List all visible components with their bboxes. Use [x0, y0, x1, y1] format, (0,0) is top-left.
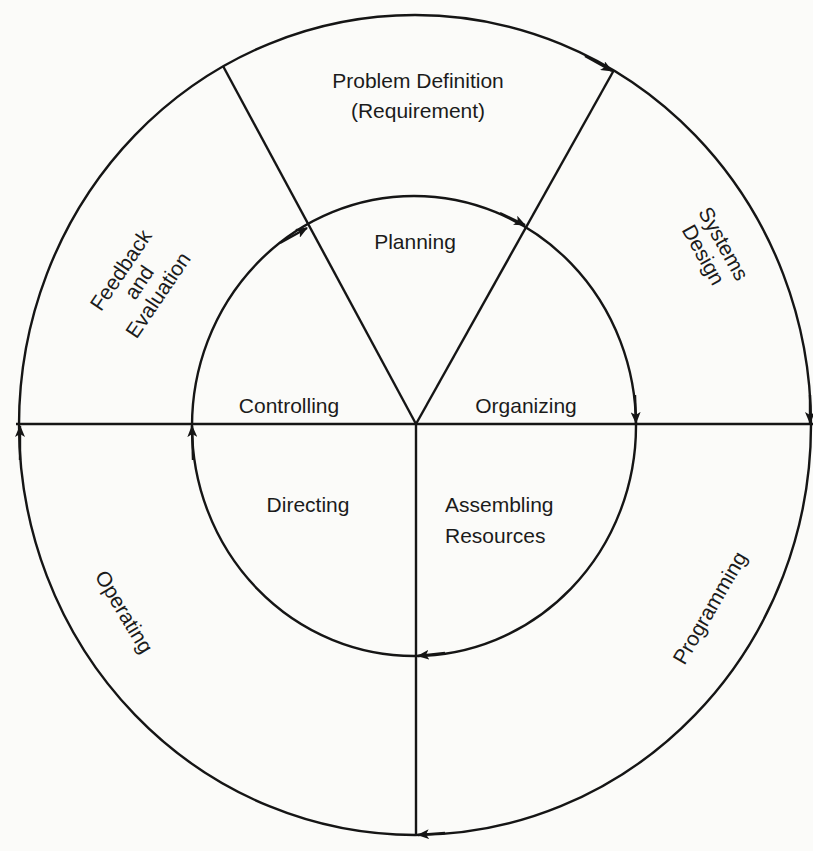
arrow-icon — [192, 426, 193, 460]
arrow-icon — [418, 653, 445, 656]
inner-ring — [192, 196, 636, 656]
stage-programming: Programming — [668, 547, 751, 668]
arrow-icon — [635, 395, 636, 423]
function-label: Resources — [445, 524, 545, 547]
stage-label: Problem Definition — [332, 69, 504, 92]
stage-label: Operating — [91, 566, 158, 657]
arrow-icon — [500, 213, 525, 225]
stage-operating: Operating — [91, 566, 158, 657]
function-planning: Planning — [374, 230, 456, 253]
function-label: Assembling — [445, 493, 554, 516]
stage-label: Programming — [668, 547, 751, 668]
function-organizing: Organizing — [475, 394, 577, 417]
arrow-icon — [280, 228, 307, 243]
stage-feedback-evaluation: Feedback and Evaluation — [84, 223, 195, 342]
arrow-icon — [585, 56, 612, 71]
stage-label: (Requirement) — [351, 99, 485, 122]
function-directing: Directing — [267, 493, 350, 516]
stage-problem-definition: Problem Definition (Requirement) — [332, 69, 504, 122]
function-assembling-resources: Assembling Resources — [445, 493, 554, 547]
function-controlling: Controlling — [239, 394, 339, 417]
stage-systems-design: Systems Design — [674, 203, 753, 296]
management-cycle-diagram: Problem Definition (Requirement) Systems… — [0, 0, 813, 851]
